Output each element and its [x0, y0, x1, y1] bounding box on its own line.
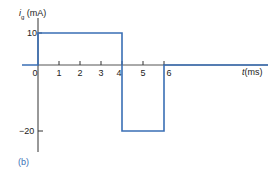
x-tick-label-3: 3 [98, 69, 103, 78]
chart-canvas [0, 0, 275, 191]
x-ticks [59, 61, 164, 65]
x-axis-unit: (ms) [245, 67, 263, 77]
y-axis-sub: g [21, 14, 24, 20]
y-axis-label: ig (mA) [19, 9, 46, 20]
y-tick-label-10: 10 [27, 29, 37, 38]
y-tick-label-neg20: −20 [19, 127, 34, 136]
x-axis-label: t(ms) [242, 68, 263, 77]
panel-label: (b) [18, 158, 29, 167]
x-tick-label-2: 2 [77, 69, 82, 78]
x-tick-label-0: 0 [32, 69, 37, 78]
x-tick-label-6: 6 [166, 69, 171, 78]
x-tick-label-4: 4 [116, 69, 121, 78]
x-tick-label-5: 5 [140, 69, 145, 78]
y-axis-unit: (mA) [27, 8, 47, 18]
series-ig-line [22, 33, 268, 131]
x-tick-label-1: 1 [56, 69, 61, 78]
